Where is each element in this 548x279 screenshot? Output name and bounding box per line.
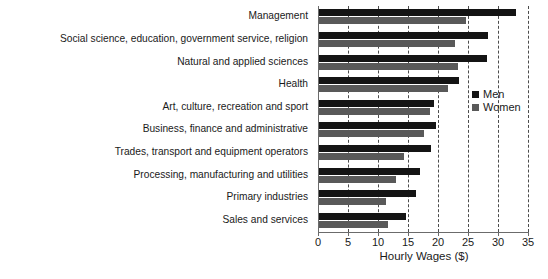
tick-label: 20 — [423, 236, 453, 249]
gridline — [468, 6, 469, 232]
legend-swatch-icon — [472, 91, 479, 98]
bar-men — [318, 190, 416, 197]
gridline — [528, 6, 529, 232]
tick-label: 5 — [333, 236, 363, 249]
legend-label: Men — [483, 88, 504, 101]
bar-women — [318, 108, 430, 115]
bar-men — [318, 9, 516, 16]
bar-men — [318, 32, 488, 39]
category-label: Sales and services — [0, 214, 308, 225]
tick-label: 35 — [513, 236, 543, 249]
bar-women — [318, 17, 466, 24]
bar-men — [318, 100, 434, 107]
legend-item: Men — [472, 88, 542, 101]
category-label: Natural and applied sciences — [0, 56, 308, 67]
x-axis-ticks: 05101520253035 — [318, 232, 532, 248]
tick-label: 30 — [483, 236, 513, 249]
legend-swatch-icon — [472, 104, 479, 111]
category-label: Business, finance and administrative — [0, 123, 308, 134]
legend-item: Women — [472, 101, 542, 114]
bar-women — [318, 130, 424, 137]
bar-women — [318, 153, 404, 160]
bar-men — [318, 145, 431, 152]
tick-label: 25 — [453, 236, 483, 249]
bar-women — [318, 63, 458, 70]
bar-men — [318, 122, 436, 129]
category-label: Art, culture, recreation and sport — [0, 101, 308, 112]
category-label: Primary industries — [0, 191, 308, 202]
bar-women — [318, 221, 388, 228]
bar-men — [318, 55, 487, 62]
category-label: Management — [0, 10, 308, 21]
plot-area — [318, 6, 528, 232]
chart-legend: MenWomen — [472, 88, 542, 114]
tick-label: 15 — [393, 236, 423, 249]
legend-label: Women — [483, 101, 521, 114]
y-axis-line — [318, 6, 319, 233]
category-label: Social science, education, government se… — [0, 33, 308, 44]
bar-women — [318, 198, 386, 205]
bar-men — [318, 77, 459, 84]
category-label: Processing, manufacturing and utilities — [0, 169, 308, 180]
category-label: Health — [0, 78, 308, 89]
bar-women — [318, 40, 455, 47]
category-label: Trades, transport and equipment operator… — [0, 146, 308, 157]
gridline — [498, 6, 499, 232]
horizontal-bar-chart: ManagementSocial science, education, gov… — [0, 0, 548, 279]
category-axis: ManagementSocial science, education, gov… — [0, 6, 313, 232]
bar-men — [318, 168, 420, 175]
bar-women — [318, 176, 396, 183]
tick-label: 0 — [303, 236, 333, 249]
x-axis-title: Hourly Wages ($) — [318, 250, 530, 262]
tick-label: 10 — [363, 236, 393, 249]
bar-women — [318, 85, 448, 92]
bar-men — [318, 213, 406, 220]
